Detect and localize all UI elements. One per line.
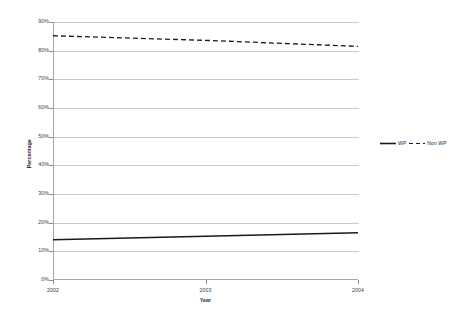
series-line-non-wp [53, 36, 358, 47]
y-tick-label: 0% [15, 277, 49, 282]
y-tick-label: 80% [15, 48, 49, 53]
x-tick-mark [53, 280, 54, 284]
legend-swatch-solid-icon [380, 141, 396, 146]
chart-legend: WPNon WP [380, 141, 447, 146]
legend-swatch-dashed-icon [409, 141, 425, 146]
y-tick-label: 90% [15, 19, 49, 24]
x-tick-label: 2003 [186, 288, 226, 293]
y-tick-label: 10% [15, 248, 49, 253]
legend-entry-non-wp: Non WP [409, 141, 446, 146]
x-tick-label: 2002 [33, 288, 73, 293]
line-chart: Percentage 0%10%20%30%40%50%60%70%80%90%… [0, 0, 464, 316]
y-tick-label: 20% [15, 220, 49, 225]
x-tick-mark [358, 280, 359, 284]
y-tick-label: 40% [15, 162, 49, 167]
y-tick-label: 50% [15, 134, 49, 139]
y-tick-label: 60% [15, 105, 49, 110]
y-tick-label: 70% [15, 76, 49, 81]
y-tick-label: 30% [15, 191, 49, 196]
x-axis-title: Year [53, 298, 358, 303]
x-tick-label: 2004 [338, 288, 378, 293]
legend-entry-wp: WP [380, 141, 406, 146]
series-layer [53, 22, 358, 280]
series-line-wp [53, 233, 358, 240]
x-tick-mark [206, 280, 207, 284]
legend-label: WP [398, 141, 406, 146]
legend-label: Non WP [427, 141, 446, 146]
